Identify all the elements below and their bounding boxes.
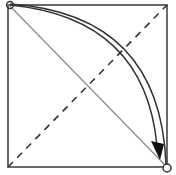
fold-diagram xyxy=(0,0,176,175)
end-corner-marker xyxy=(163,164,171,172)
